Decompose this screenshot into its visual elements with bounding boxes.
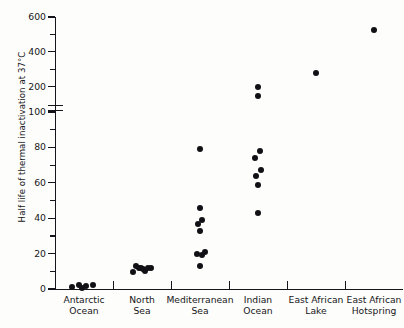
data-point [255,210,261,216]
x-separator-5 [345,281,346,289]
y-tick-600 [48,16,55,17]
y-tick-label-200: 200 [22,82,46,91]
data-point [90,282,96,288]
data-point [371,27,377,33]
y-tick-label-600: 600 [22,12,46,21]
data-point [195,221,201,227]
y-tick-label-60: 60 [22,178,46,187]
y-tick-label-100: 100 [22,107,46,116]
x-category-label-line: Hotspring [339,305,404,316]
x-separator-1 [113,281,114,289]
data-point [197,228,203,234]
x-separator-3 [229,281,230,289]
y-tick-0 [48,288,55,289]
data-point [79,285,85,291]
data-point [255,84,261,90]
data-point [197,205,203,211]
y-tick-80 [48,147,55,148]
data-point [313,70,319,76]
data-point [257,148,263,154]
data-point [197,263,203,269]
y-tick-label-20: 20 [22,249,46,258]
axis-break-upper [48,105,63,106]
x-separator-4 [287,281,288,289]
y-tick-90 [50,129,55,130]
data-point [199,252,205,258]
y-tick-50 [50,200,55,201]
x-category-label-5: East AfricanHotspring [339,294,404,316]
y-tick-40 [48,218,55,219]
data-point [253,173,259,179]
data-point [130,269,136,275]
data-point [255,93,261,99]
data-point [197,146,203,152]
y-tick-100 [48,111,55,112]
y-tick-label-40: 40 [22,213,46,222]
y-tick-30 [50,235,55,236]
y-tick-300 [50,69,55,70]
y-tick-400 [48,51,55,52]
axis-break-lower [48,110,63,111]
y-tick-label-80: 80 [22,142,46,151]
data-point [258,167,264,173]
y-tick-500 [50,34,55,35]
x-category-label-line: East African [339,294,404,305]
data-point [252,155,258,161]
y-tick-200 [48,86,55,87]
data-point [145,265,151,271]
x-separator-2 [171,281,172,289]
y-tick-70 [50,165,55,166]
y-tick-20 [48,253,55,254]
y-tick-60 [48,182,55,183]
dot-plot-chart: Half life of thermal inactivation at 37°… [0,0,404,328]
y-tick-label-0: 0 [22,284,46,293]
y-tick-10 [50,271,55,272]
y-tick-label-400: 400 [22,47,46,56]
y-axis-line [55,17,56,289]
x-axis-line [55,289,403,290]
data-point [255,182,261,188]
